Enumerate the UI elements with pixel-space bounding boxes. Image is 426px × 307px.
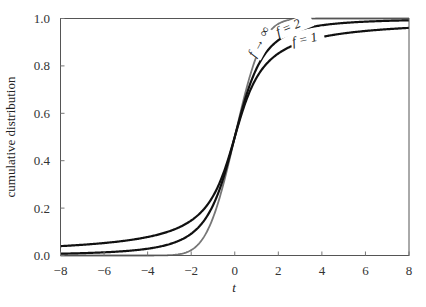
x-axis-label: t [232, 280, 236, 295]
x-tick-label: 8 [406, 263, 413, 278]
y-axis-ticks: 0.00.20.40.60.81.0 [34, 11, 65, 263]
y-tick-label: 0.4 [34, 153, 51, 168]
x-tick-label: 4 [319, 263, 326, 278]
x-tick-label: 0 [232, 263, 239, 278]
y-tick-label: 0.8 [34, 58, 50, 73]
curve-labels: f = 1f = 2f → ∞ [244, 13, 325, 61]
x-tick-label: −2 [184, 263, 198, 278]
x-tick-label: −6 [97, 263, 111, 278]
y-tick-label: 0.2 [34, 201, 50, 216]
plot-curves [61, 19, 410, 256]
x-tick-label: −8 [54, 263, 68, 278]
y-axis-label: cumulative distribution [3, 76, 18, 197]
x-tick-label: 6 [362, 263, 369, 278]
x-tick-label: 2 [275, 263, 282, 278]
curve-f1 [61, 28, 410, 246]
y-tick-label: 1.0 [34, 11, 50, 26]
y-tick-label: 0.6 [34, 106, 51, 121]
y-tick-label: 0.0 [34, 248, 50, 263]
x-tick-label: −4 [141, 263, 155, 278]
cdf-chart: −8−6−4−202468 0.00.20.40.60.81.0 t cumul… [0, 0, 426, 307]
